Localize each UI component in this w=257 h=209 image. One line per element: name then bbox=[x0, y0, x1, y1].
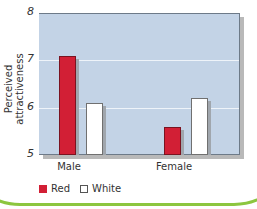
bar-white-male bbox=[86, 103, 103, 155]
y-tick-label: 7 bbox=[20, 52, 34, 65]
legend-item-white: White bbox=[80, 183, 121, 194]
legend: Red White bbox=[39, 183, 131, 194]
x-category-label: Male bbox=[39, 161, 99, 172]
bar-red-male bbox=[59, 56, 76, 155]
x-category-label: Female bbox=[144, 161, 204, 172]
bar-white-female bbox=[191, 98, 208, 155]
y-tick-label: 6 bbox=[20, 100, 34, 113]
y-axis-label: Perceived attractiveness bbox=[3, 34, 25, 144]
legend-item-red: Red bbox=[39, 183, 70, 194]
white-swatch-icon bbox=[80, 185, 88, 193]
red-swatch-icon bbox=[39, 185, 47, 193]
y-tick-label: 8 bbox=[20, 5, 34, 18]
bar-red-female bbox=[164, 127, 181, 155]
legend-label-white: White bbox=[92, 183, 121, 194]
y-tick-label: 5 bbox=[20, 147, 34, 160]
legend-label-red: Red bbox=[51, 183, 70, 194]
